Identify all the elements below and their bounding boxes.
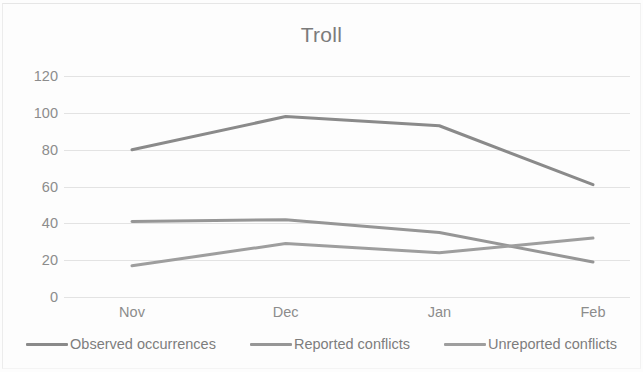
chart-figure: Troll 020406080100120 NovDecJanFeb Obser… [0,0,643,372]
plot-area [64,76,630,297]
y-tick-label: 100 [14,105,58,121]
legend-swatch-icon [444,343,486,346]
legend-swatch-icon [26,343,68,346]
legend-item[interactable]: Reported conflicts [250,336,410,352]
series-line [132,117,593,185]
legend-label: Reported conflicts [294,336,410,352]
series-lines [64,76,630,297]
legend-item[interactable]: Observed occurrences [26,336,216,352]
legend-label: Observed occurrences [70,336,216,352]
chart-title: Troll [0,23,643,47]
y-tick-label: 40 [14,215,58,231]
y-tick-label: 120 [14,68,58,84]
chart-legend: Observed occurrencesReported conflictsUn… [0,336,643,352]
series-line [132,238,593,266]
x-tick-label: Nov [119,304,145,320]
y-tick-label: 0 [14,289,58,305]
legend-swatch-icon [250,343,292,346]
legend-label: Unreported conflicts [488,336,617,352]
y-tick-label: 20 [14,252,58,268]
y-tick-label: 60 [14,179,58,195]
y-tick-label: 80 [14,142,58,158]
legend-item[interactable]: Unreported conflicts [444,336,617,352]
x-tick-label: Jan [428,304,451,320]
gridline [64,297,630,298]
x-tick-label: Feb [581,304,606,320]
x-tick-label: Dec [273,304,299,320]
